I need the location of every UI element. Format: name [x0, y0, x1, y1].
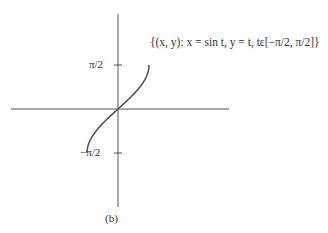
parametric-curve-figure: {(x, y): x = sin t, y = t, tε[−π/2, π/2]…	[0, 0, 328, 233]
y-tick-label-bottom: −π/2	[80, 147, 100, 158]
figure-caption: (b)	[105, 213, 118, 224]
set-notation-label: {(x, y): x = sin t, y = t, tε[−π/2, π/2]…	[150, 37, 320, 49]
plot-canvas	[0, 0, 328, 233]
y-tick-label-top: π/2	[89, 59, 103, 70]
